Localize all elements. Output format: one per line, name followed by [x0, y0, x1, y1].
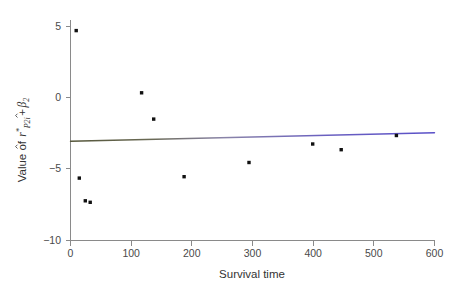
data-point: [140, 91, 143, 94]
y-tick-label: −10: [43, 234, 61, 246]
data-point: [152, 117, 155, 120]
data-point: [75, 29, 78, 32]
x-tick-label: 0: [68, 247, 74, 259]
plot-background: [0, 0, 459, 288]
x-tick-label: 500: [365, 247, 383, 259]
x-tick-label: 400: [304, 247, 322, 259]
y-tick-label: −5: [49, 162, 61, 174]
data-point: [395, 134, 398, 137]
data-point: [247, 161, 250, 164]
chart-figure: 5 0 −5 −10 0 100 200 300 400 500 600: [0, 0, 459, 288]
data-point: [78, 176, 81, 179]
x-tick-label: 100: [122, 247, 140, 259]
scatter-plot-canvas: 5 0 −5 −10 0 100 200 300 400 500 600: [0, 0, 459, 288]
y-axis-residual-subscript: P2i: [23, 117, 32, 129]
data-point: [340, 148, 343, 151]
y-axis-beta-subscript: 2: [22, 98, 31, 102]
x-axis-title: Survival time: [219, 268, 285, 280]
x-tick-label: 300: [244, 247, 262, 259]
y-axis-title-prefix: Value of: [16, 138, 28, 183]
y-axis-plus-sign: +: [16, 109, 28, 116]
data-point: [84, 199, 87, 202]
x-tick-label: 200: [183, 247, 201, 259]
x-tick-label: 600: [426, 247, 444, 259]
data-point: [89, 201, 92, 204]
data-point: [182, 175, 185, 178]
data-point: [311, 142, 314, 145]
y-tick-label: 0: [55, 91, 61, 103]
y-tick-label: 5: [55, 20, 61, 32]
